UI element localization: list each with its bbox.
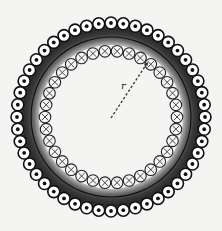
cross-icon bbox=[123, 48, 135, 60]
dot-icon bbox=[129, 20, 141, 32]
cross-icon bbox=[135, 170, 147, 182]
dot-icon bbox=[105, 205, 117, 217]
cross-icon bbox=[87, 175, 99, 187]
cross-icon bbox=[49, 146, 61, 158]
dot-icon bbox=[81, 20, 93, 32]
dot-icon bbox=[12, 99, 24, 111]
dot-icon bbox=[11, 111, 23, 123]
dot-icon bbox=[69, 198, 81, 210]
dot-icon bbox=[117, 204, 129, 216]
cross-icon bbox=[167, 87, 179, 99]
dot-icon bbox=[18, 75, 30, 87]
cross-icon bbox=[76, 52, 88, 64]
dot-icon bbox=[69, 24, 81, 36]
dot-icon bbox=[14, 135, 26, 147]
dot-icon bbox=[12, 123, 24, 135]
cross-icon bbox=[170, 99, 182, 111]
cross-icon bbox=[171, 111, 183, 123]
dot-icon bbox=[198, 123, 210, 135]
dot-icon bbox=[105, 17, 117, 29]
dot-icon bbox=[93, 18, 105, 30]
cross-icon bbox=[40, 99, 52, 111]
cross-icon bbox=[56, 156, 68, 168]
cross-icon bbox=[99, 45, 111, 57]
dot-icon bbox=[14, 87, 26, 99]
cross-icon bbox=[161, 76, 173, 88]
cross-icon bbox=[65, 164, 77, 176]
dot-icon bbox=[81, 202, 93, 214]
dot-icon bbox=[152, 192, 164, 204]
cross-icon bbox=[135, 52, 147, 64]
cross-icon bbox=[154, 156, 166, 168]
dot-icon bbox=[196, 87, 208, 99]
cross-icon bbox=[111, 45, 123, 57]
dot-icon bbox=[192, 75, 204, 87]
cross-icon bbox=[40, 123, 52, 135]
dot-icon bbox=[129, 202, 141, 214]
cross-icon bbox=[123, 175, 135, 187]
dot-icon bbox=[196, 135, 208, 147]
dot-icon bbox=[141, 198, 153, 210]
cross-icon bbox=[56, 67, 68, 79]
dot-icon bbox=[58, 30, 70, 42]
cross-icon bbox=[76, 170, 88, 182]
cross-icon bbox=[44, 87, 56, 99]
cross-icon bbox=[145, 164, 157, 176]
cross-icon bbox=[99, 177, 111, 189]
cross-icon bbox=[49, 76, 61, 88]
dot-icon bbox=[192, 147, 204, 159]
dot-icon bbox=[93, 204, 105, 216]
dot-icon bbox=[141, 24, 153, 36]
cross-icon bbox=[111, 177, 123, 189]
cross-icon bbox=[44, 135, 56, 147]
dot-icon bbox=[117, 18, 129, 30]
cross-icon bbox=[170, 123, 182, 135]
dot-icon bbox=[24, 158, 36, 170]
solenoid-diagram bbox=[0, 0, 222, 231]
dot-icon bbox=[199, 111, 211, 123]
cross-icon bbox=[167, 135, 179, 147]
dot-icon bbox=[198, 99, 210, 111]
cross-icon bbox=[65, 59, 77, 71]
cross-icon bbox=[154, 67, 166, 79]
dot-icon bbox=[186, 64, 198, 76]
radius-label: r bbox=[121, 80, 126, 91]
cross-icon bbox=[161, 146, 173, 158]
cross-icon bbox=[39, 111, 51, 123]
cross-icon bbox=[87, 48, 99, 60]
dot-icon bbox=[18, 147, 30, 159]
